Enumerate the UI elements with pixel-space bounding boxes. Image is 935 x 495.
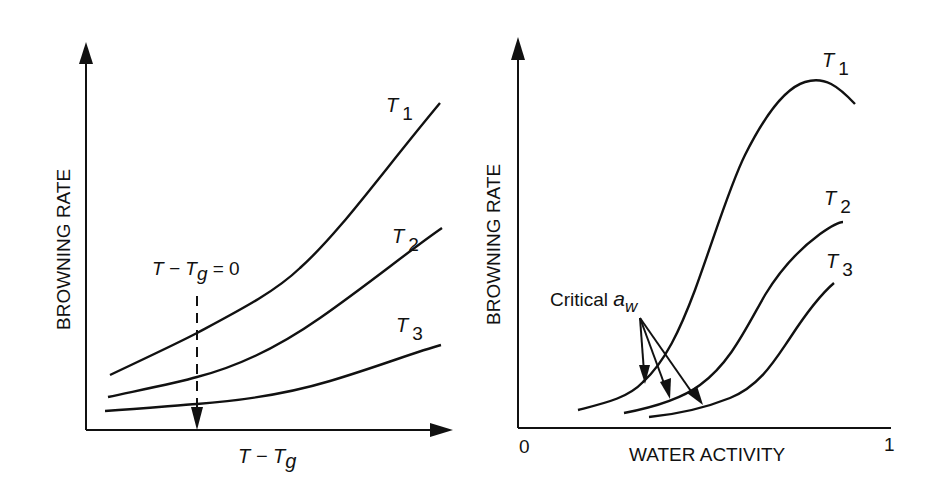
right-label-t3: T3 — [826, 250, 853, 280]
right-curve-t2 — [624, 222, 843, 413]
critical-aw-arrow-t2-icon — [660, 378, 671, 399]
critical-aw-annotation: Critical aw — [550, 287, 639, 316]
right-label-t2: T2 — [824, 187, 851, 217]
left-curve-t1 — [110, 103, 440, 375]
left-curve-t3 — [105, 345, 441, 411]
left-x-axis-label: T − Tg — [238, 445, 296, 472]
left-label-t2: T2 — [392, 225, 419, 255]
left-label-t1: T1 — [386, 94, 413, 124]
right-curve-t1 — [578, 80, 855, 410]
critical-aw-arrow-t1-icon — [639, 365, 650, 384]
figure-canvas: BROWNING RATE T − Tg T − Tg = 0 T1 T2 T3 — [0, 0, 935, 495]
right-y-axis-arrow-icon — [511, 37, 525, 60]
right-x-axis-label: WATER ACTIVITY — [629, 444, 786, 465]
left-chart: BROWNING RATE T − Tg T − Tg = 0 T1 T2 T3 — [53, 42, 453, 472]
right-x-tick-0: 0 — [519, 436, 530, 457]
right-chart: 0 1 BROWNING RATE WATER ACTIVITY Critica… — [483, 37, 895, 465]
left-curve-t2 — [108, 228, 442, 397]
critical-aw-arrows — [639, 318, 703, 405]
right-label-t1: T1 — [822, 49, 849, 79]
tg-zero-arrow-icon — [191, 407, 203, 430]
left-y-axis-arrow-icon — [79, 42, 93, 64]
left-label-t3: T3 — [396, 314, 423, 344]
tg-zero-annotation: T − Tg = 0 — [152, 258, 240, 284]
right-x-tick-1: 1 — [884, 434, 895, 455]
left-x-axis-arrow-icon — [430, 423, 453, 437]
left-y-axis-label: BROWNING RATE — [53, 169, 74, 330]
right-y-axis-label: BROWNING RATE — [483, 164, 504, 325]
